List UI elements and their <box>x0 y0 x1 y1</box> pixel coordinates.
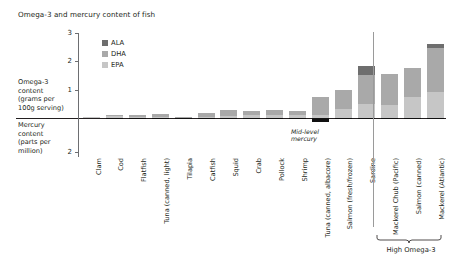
bar-group <box>266 28 283 156</box>
bar-segment-dha <box>381 74 398 105</box>
y-tick-label-mercury: 2 <box>56 148 72 156</box>
mercury-bar <box>312 118 329 122</box>
x-axis-label: Pollock <box>278 158 286 181</box>
y-tick-label: 1 <box>56 86 72 94</box>
mid-mercury-line2: mercury <box>291 135 317 142</box>
bar-segment-epa <box>404 97 421 118</box>
x-axis-label: Tuna (canned, light) <box>163 158 171 224</box>
bar-series-container <box>79 28 446 156</box>
high-omega-bracket-icon <box>376 235 442 244</box>
omega3-stacked-bar <box>404 68 421 118</box>
x-axis-label: Shrimp <box>301 158 309 182</box>
mercury-bar <box>381 118 398 119</box>
mercury-axis-caption: Mercury content (parts per million) <box>18 121 84 155</box>
bar-segment-dha <box>404 68 421 96</box>
mid-level-mercury-annotation: Mid-level mercury <box>291 128 341 143</box>
y-tick-mark <box>75 33 78 34</box>
x-axis-label: Crab <box>255 158 263 174</box>
bar-segment-dha <box>427 48 444 92</box>
bar-segment-epa <box>83 117 100 118</box>
mercury-caption-line1: Mercury <box>18 121 84 130</box>
bar-segment-epa <box>335 109 352 118</box>
bar-group <box>175 28 192 156</box>
mercury-bar <box>152 118 169 119</box>
bar-group <box>243 28 260 156</box>
mid-mercury-line1: Mid-level <box>291 128 319 135</box>
mercury-bar <box>289 118 306 119</box>
omega3-stacked-bar <box>243 111 260 118</box>
omega3-caption-line4: 100g serving) <box>18 104 84 113</box>
mercury-bar <box>266 118 283 119</box>
mercury-bar <box>220 118 237 119</box>
chart-title: Omega-3 and mercury content of fish <box>18 10 155 19</box>
x-axis-label: Tuna (canned, albacore) <box>324 158 332 238</box>
chart-root: Omega-3 and mercury content of fish Omeg… <box>0 0 455 279</box>
y-tick-label: 3 <box>56 29 72 37</box>
omega3-stacked-bar <box>83 117 100 118</box>
x-axis-label: Salmon (fresh/frozen) <box>346 158 354 229</box>
bar-group <box>198 28 215 156</box>
x-axis-label: Clam <box>95 158 103 175</box>
mercury-bar <box>175 118 192 119</box>
x-axis-labels: ClamCodFlatfishTuna (canned, light)Tilap… <box>79 158 447 228</box>
x-axis-label: Mackerel Chub (Pacific) <box>392 158 400 235</box>
omega3-caption-line2: content <box>18 87 84 96</box>
omega3-stacked-bar <box>427 44 444 118</box>
x-axis-label: Tilapia <box>186 158 194 180</box>
omega3-stacked-bar <box>220 110 237 118</box>
high-omega-label: High Omega-3 <box>376 246 446 254</box>
bar-group <box>404 28 421 156</box>
y-tick-mark-mercury <box>75 152 78 153</box>
omega3-caption-line3: (grams per <box>18 95 84 104</box>
mercury-bar <box>335 118 352 119</box>
bar-group <box>106 28 123 156</box>
bar-segment-dha <box>312 97 329 115</box>
x-axis-label: Squid <box>232 158 240 177</box>
bar-group <box>220 28 237 156</box>
x-axis-label: Flatfish <box>140 158 148 182</box>
mercury-bar <box>243 118 260 119</box>
y-tick-label: 2 <box>56 57 72 65</box>
omega3-stacked-bar <box>266 110 283 119</box>
mercury-bar <box>129 118 146 119</box>
bar-group <box>83 28 100 156</box>
bar-segment-dha <box>335 90 352 109</box>
high-omega-divider <box>373 32 374 227</box>
bar-segment-epa <box>427 92 444 118</box>
x-axis-label: Cod <box>117 158 125 171</box>
x-axis-label: Salmon (canned) <box>415 158 423 214</box>
bar-group <box>381 28 398 156</box>
bar-group <box>427 28 444 156</box>
mercury-bar <box>404 118 421 119</box>
y-tick-mark <box>75 61 78 62</box>
mercury-caption-line2: content <box>18 130 84 139</box>
x-axis-label: Mackerel (Atlantic) <box>438 158 446 220</box>
mercury-caption-line3: (parts per <box>18 138 84 147</box>
mercury-bar <box>198 118 215 119</box>
omega3-caption-line1: Omega-3 <box>18 78 84 87</box>
y-tick-mark <box>75 90 78 91</box>
plot-area: 3212 <box>78 28 446 156</box>
x-axis-label: Catfish <box>209 158 217 181</box>
omega3-stacked-bar <box>381 74 398 118</box>
mercury-bar <box>106 118 123 119</box>
omega3-axis-caption: Omega-3 content (grams per 100g serving) <box>18 78 84 112</box>
bar-segment-epa <box>381 105 398 118</box>
omega3-stacked-bar <box>335 90 352 118</box>
omega3-stacked-bar <box>289 111 306 118</box>
bar-group <box>129 28 146 156</box>
bar-group <box>152 28 169 156</box>
omega3-stacked-bar <box>312 97 329 118</box>
mercury-bar <box>427 118 444 119</box>
